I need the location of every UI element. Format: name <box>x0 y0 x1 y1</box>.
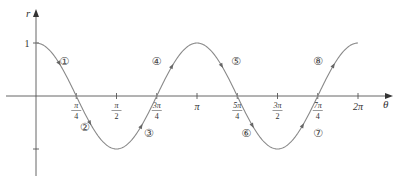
segment-label: ⑦ <box>313 127 323 140</box>
x-tick-label-numerator: π <box>74 101 79 110</box>
x-tick-label: π <box>194 101 200 112</box>
x-ticks: π4π23π4π5π43π27π42π <box>71 93 364 121</box>
x-axis-label: θ <box>383 98 389 110</box>
direction-arrow-icon <box>330 62 336 68</box>
x-tick-label-denominator: 4 <box>316 112 320 121</box>
segment-label: ⑥ <box>241 127 251 140</box>
segment-label: ② <box>80 121 90 134</box>
segment-label: ① <box>59 55 69 68</box>
x-tick-label-denominator: 4 <box>155 112 159 121</box>
direction-arrows <box>56 60 336 129</box>
direction-arrow-icon <box>300 122 306 128</box>
segment-label: ⑤ <box>231 55 241 68</box>
y-tick-label: 1 <box>25 38 30 49</box>
segment-label: ③ <box>144 127 154 140</box>
x-tick-label-denominator: 4 <box>235 112 239 121</box>
y-ticks: 1 <box>25 38 40 150</box>
x-tick-label-numerator: 3π <box>272 101 282 110</box>
y-axis-label: r <box>26 7 31 19</box>
direction-arrow-icon <box>219 63 225 69</box>
polar-curve-chart: r θ π4π23π4π5π43π27π42π 1 ①②③④⑤⑥⑦⑧ <box>0 0 411 181</box>
x-tick-label-denominator: 2 <box>276 112 280 121</box>
direction-arrow-icon <box>169 63 175 69</box>
y-axis-arrow-icon <box>33 9 39 17</box>
x-tick-label-denominator: 2 <box>115 112 119 121</box>
segment-label: ④ <box>151 55 161 68</box>
x-tick-label-denominator: 4 <box>74 112 78 121</box>
segment-label: ⑧ <box>313 55 323 68</box>
x-tick-label: 2π <box>353 101 364 112</box>
x-tick-label-numerator: π <box>114 101 119 110</box>
segment-annotations: ①②③④⑤⑥⑦⑧ <box>59 55 323 140</box>
axes: r θ <box>6 7 393 176</box>
